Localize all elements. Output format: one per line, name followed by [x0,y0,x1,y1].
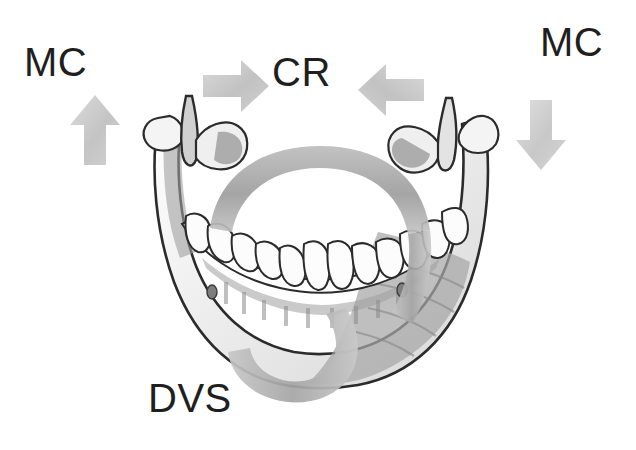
right-condyle-group [459,116,499,153]
right-condyle [459,116,499,153]
arrow-left-shape [358,64,424,116]
label-cr: CR [272,52,331,92]
figure-canvas: MC CR MC DVS [0,0,636,450]
left-condyle-group [144,116,184,151]
label-mc-right: MC [540,22,603,62]
mental-foramen-left [207,285,217,299]
arrow-up-left [70,95,120,165]
arrow-right-shape [203,60,269,112]
mandible-svg [140,112,502,402]
arrow-up-shape [70,95,120,165]
tooth [442,208,468,244]
label-dvs: DVS [148,378,232,418]
right-coronoid-spike [438,98,457,171]
arrow-down-shape [516,100,566,170]
arrow-left [358,64,424,116]
tooth-central-incisor [328,241,354,289]
arrow-down-right [516,100,566,170]
label-mc-left: MC [24,42,87,82]
arrow-right [203,60,269,112]
left-condyle [144,116,184,151]
mandible-illustration [140,112,502,402]
